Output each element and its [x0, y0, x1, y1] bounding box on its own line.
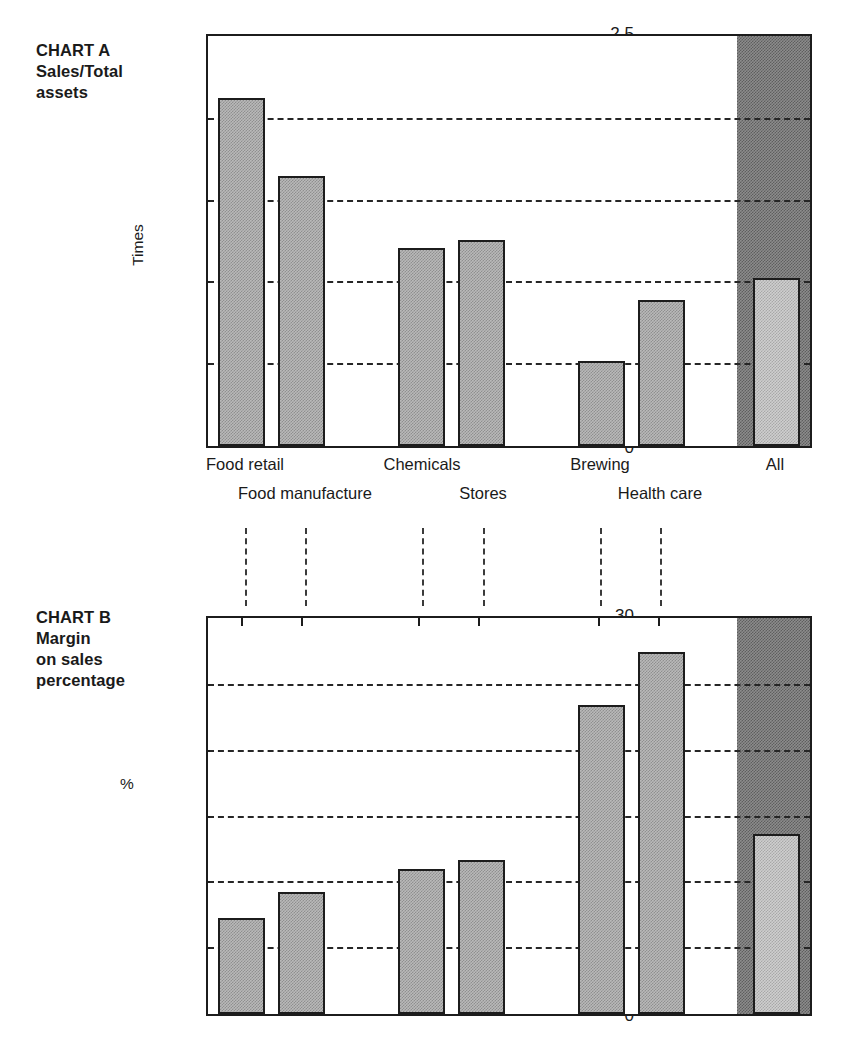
chart-a-xlabel-food-retail: Food retail: [206, 455, 284, 474]
chart-b-bar-all[interactable]: [753, 834, 800, 1014]
chart-a-y-axis-unit-label: Times: [129, 205, 147, 285]
connector-stores: [483, 528, 485, 606]
chart-a-heading-line-3: assets: [36, 82, 196, 103]
chart-b-xtick-top: [478, 618, 480, 626]
chart-a-xlabel-brewing: Brewing: [570, 455, 630, 474]
chart-b-bar-food-retail[interactable]: [218, 918, 265, 1014]
chart-b-xtick-top: [418, 618, 420, 626]
chart-b-plot-area: [206, 616, 812, 1016]
chart-b-gridline-25: [208, 684, 810, 686]
chart-b-heading-line-3: on sales: [36, 649, 196, 670]
chart-b-ytick-20: [208, 750, 210, 752]
chart-b-xtick-top: [301, 618, 303, 626]
chart-a-bar-food-manufacture[interactable]: [278, 176, 325, 446]
chart-b-bar-health-care[interactable]: [638, 652, 685, 1014]
chart-a-bar-chemicals[interactable]: [398, 248, 445, 446]
chart-a-heading-line-1: CHART A: [36, 40, 196, 61]
chart-b-ytick-25: [208, 684, 210, 686]
connector-chemicals: [422, 528, 424, 606]
chart-b-gridline-20: [208, 750, 810, 752]
chart-b-gridline-15: [208, 816, 810, 818]
chart-a-xlabel-chemicals: Chemicals: [383, 455, 460, 474]
chart-a-ytick-1.5: [208, 200, 210, 202]
chart-a-bar-brewing[interactable]: [578, 361, 625, 446]
chart-a-xlabel-food-manufacture: Food manufacture: [238, 484, 372, 503]
chart-a-bar-health-care[interactable]: [638, 300, 685, 446]
chart-a-gridline-2: [208, 118, 810, 120]
chart-b-heading-line-4: percentage: [36, 670, 196, 691]
chart-b-ytick-15: [208, 816, 210, 818]
chart-b-bar-stores[interactable]: [458, 860, 505, 1014]
chart-a-plot-area: [206, 34, 812, 448]
chart-a-xlabel-health-care: Health care: [618, 484, 702, 503]
chart-a-ytick-0.5: [208, 363, 210, 365]
chart-b-bar-chemicals[interactable]: [398, 869, 445, 1014]
chart-b-heading-line-1: CHART B: [36, 607, 196, 628]
chart-b-bar-food-manufacture[interactable]: [278, 892, 325, 1015]
chart-a-bar-food-retail[interactable]: [218, 98, 265, 446]
chart-b-heading-line-2: Margin: [36, 628, 196, 649]
connector-food-retail: [245, 528, 247, 606]
chart-b-xtick-top: [598, 618, 600, 626]
connector-health-care: [660, 528, 662, 606]
chart-b-gridline-10: [208, 881, 810, 883]
chart-a-ytick-1: [208, 281, 210, 283]
chart-a-xlabel-all: All: [766, 455, 784, 474]
chart-a-plot-inner: [208, 36, 810, 446]
chart-b-y-axis-unit-label: %: [120, 775, 134, 793]
two-panel-bar-figure: CHART A Sales/Total assets Times 0 0.5 1…: [0, 0, 848, 1060]
chart-a-heading: CHART A Sales/Total assets: [36, 40, 196, 103]
chart-b-ytick-5: [208, 947, 210, 949]
chart-a-ytick-2: [208, 118, 210, 120]
connector-food-manufacture: [305, 528, 307, 606]
chart-a-bar-stores[interactable]: [458, 240, 505, 446]
chart-a-heading-line-2: Sales/Total: [36, 61, 196, 82]
chart-b-heading: CHART B Margin on sales percentage: [36, 607, 196, 691]
chart-b-plot-inner: [208, 618, 810, 1014]
chart-b-xtick-top: [241, 618, 243, 626]
chart-a-bar-all[interactable]: [753, 278, 800, 447]
chart-b-bar-brewing[interactable]: [578, 705, 625, 1014]
connector-brewing: [600, 528, 602, 606]
chart-b-ytick-10: [208, 881, 210, 883]
chart-a-xlabel-stores: Stores: [459, 484, 507, 503]
chart-b-xtick-top: [658, 618, 660, 626]
